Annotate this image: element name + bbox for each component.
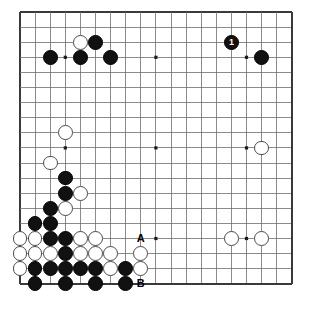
star-point: [245, 237, 248, 240]
stone-black[interactable]: [88, 276, 103, 291]
stone-white[interactable]: [43, 156, 58, 171]
stone-white[interactable]: [73, 231, 88, 246]
numbered-stone-black[interactable]: 1: [224, 35, 239, 50]
board-letter-label-b: B: [135, 278, 147, 290]
star-point: [245, 146, 248, 149]
stone-black[interactable]: [43, 216, 58, 231]
stone-black[interactable]: [28, 216, 43, 231]
stone-white[interactable]: [103, 261, 118, 276]
stone-white[interactable]: [254, 141, 269, 156]
stone-black[interactable]: [58, 276, 73, 291]
stone-white[interactable]: [73, 35, 88, 50]
star-point: [64, 146, 67, 149]
stone-white[interactable]: [13, 231, 28, 246]
stone-white[interactable]: [103, 246, 118, 261]
stone-white[interactable]: [58, 201, 73, 216]
stone-white[interactable]: [43, 246, 58, 261]
stone-white[interactable]: [254, 231, 269, 246]
stone-black[interactable]: [88, 261, 103, 276]
star-point: [154, 56, 157, 59]
stone-black[interactable]: [58, 171, 73, 186]
stone-white[interactable]: [73, 186, 88, 201]
stone-black[interactable]: [43, 50, 58, 65]
stone-black[interactable]: [88, 35, 103, 50]
stone-white[interactable]: [224, 231, 239, 246]
stone-black[interactable]: [58, 261, 73, 276]
stone-white[interactable]: [88, 231, 103, 246]
star-point: [154, 237, 157, 240]
star-point: [245, 56, 248, 59]
stone-black[interactable]: [103, 50, 118, 65]
stone-black[interactable]: [43, 201, 58, 216]
stone-black[interactable]: [58, 186, 73, 201]
stone-black[interactable]: [254, 50, 269, 65]
stone-white[interactable]: [58, 125, 73, 140]
stone-black[interactable]: [43, 231, 58, 246]
stone-black[interactable]: [43, 261, 58, 276]
stone-black[interactable]: [58, 231, 73, 246]
board-letter-label-a: A: [135, 233, 147, 245]
star-point: [64, 56, 67, 59]
stone-black[interactable]: [58, 246, 73, 261]
stone-black[interactable]: [73, 50, 88, 65]
stone-white[interactable]: [73, 246, 88, 261]
star-point: [154, 146, 157, 149]
stone-white[interactable]: [88, 246, 103, 261]
go-diagram: 1 AB: [0, 0, 309, 314]
stone-move-number: 1: [225, 36, 238, 49]
stone-black[interactable]: [73, 261, 88, 276]
